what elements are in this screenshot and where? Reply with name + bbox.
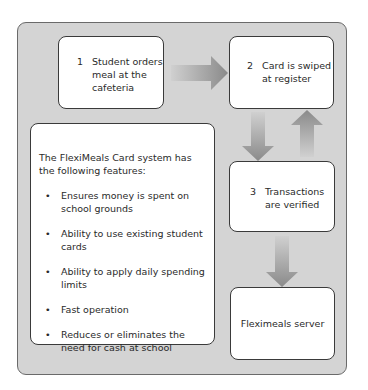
arrow-down-icon [266,236,298,288]
step-3-number: 3 [250,185,265,211]
step-1-text: Student orders meal at the cafeteria [92,55,163,94]
server-label: Fleximeals server [241,317,325,330]
arrow-right-icon [171,56,229,90]
step-3-box: 3 Transactions are verified [229,161,335,232]
step-2-number: 2 [247,59,262,85]
step-2-text: Card is swiped at register [262,59,331,85]
features-box: The FlexiMeals Card system has the follo… [30,123,215,345]
features-list: Ensures money is spent on school grounds… [39,189,206,354]
server-box: Fleximeals server [230,287,335,360]
step-3-line: Transactions [265,186,324,197]
feature-item: Ability to apply daily spending limits [39,265,206,291]
step-1-number: 1 [77,55,92,94]
features-intro: The FlexiMeals Card system has the follo… [39,151,206,177]
step-3-line: are verified [265,199,319,210]
feature-item: Ensures money is spent on school grounds [39,189,206,215]
step-1-line: cafeteria [92,82,134,93]
step-2-box: 2 Card is swiped at register [229,36,334,109]
feature-item: Fast operation [39,303,206,316]
arrow-up-icon [291,110,323,158]
step-1-box: 1 Student orders meal at the cafeteria [58,36,164,109]
step-2-line: Card is swiped [262,60,331,71]
step-1-line: meal at the [92,69,147,80]
step-1-line: Student orders [92,56,163,67]
step-2-line: at register [262,73,311,84]
step-3-text: Transactions are verified [265,185,324,211]
arrow-down-icon [242,112,274,162]
feature-item: Reduces or eliminates the need for cash … [39,328,206,354]
feature-item: Ability to use existing student cards [39,227,206,253]
